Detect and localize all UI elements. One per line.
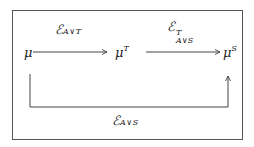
arrow-mu-to-muS-below [30,74,228,107]
edge-label-E-T-AvS-subscript: A∨S [176,37,193,45]
edge-label-E-AvS-symbol: ℰ [112,113,120,128]
edge-label-E-T-AvS: ℰTA∨S [167,20,193,45]
edge-label-E-AvT-symbol: ℰ [55,22,63,37]
edge-label-E-AvS-subscript: A∨S [120,118,139,127]
node-mu-S: μS [223,46,237,59]
node-muS-superscript: S [231,44,236,53]
edge-label-E-T-AvS-symbol: ℰ [167,19,175,34]
edge-label-E-T-AvS-scripts: TA∨S [176,29,193,45]
node-mu-symbol: μ [24,45,32,60]
node-mu-T: μT [115,46,129,59]
node-mu: μ [24,46,32,59]
edge-label-E-AvS: ℰA∨S [112,114,139,127]
edge-label-E-AvT-subscript: A∨T [63,27,81,36]
node-muT-superscript: T [123,44,128,53]
edge-label-E-AvT: ℰA∨T [55,23,81,36]
